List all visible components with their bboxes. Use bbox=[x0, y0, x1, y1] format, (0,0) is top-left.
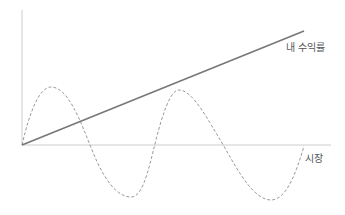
my-return-label: 내 수익률 bbox=[286, 39, 325, 54]
market-wave bbox=[22, 87, 304, 200]
my-return-line bbox=[22, 31, 304, 145]
diagram-canvas bbox=[0, 0, 345, 215]
market-label: 시장 bbox=[305, 150, 323, 165]
